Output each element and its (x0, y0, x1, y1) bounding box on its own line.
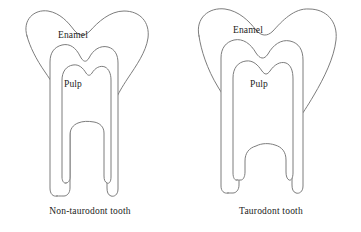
non-taurodont-tooth-diagram (0, 0, 180, 205)
label-enamel-non-taurodont: Enamel (58, 30, 88, 40)
tooth-comparison-figure: Enamel Pulp Enamel Pulp Non-taurodont to… (0, 0, 361, 232)
taurodont-tooth-diagram (181, 0, 361, 205)
label-pulp-non-taurodont: Pulp (64, 79, 82, 89)
caption-taurodont-tooth: Taurodont tooth (181, 206, 361, 216)
label-pulp-taurodont: Pulp (250, 79, 268, 89)
label-enamel-taurodont: Enamel (233, 25, 263, 35)
caption-non-taurodont-tooth: Non-taurodont tooth (0, 206, 180, 216)
